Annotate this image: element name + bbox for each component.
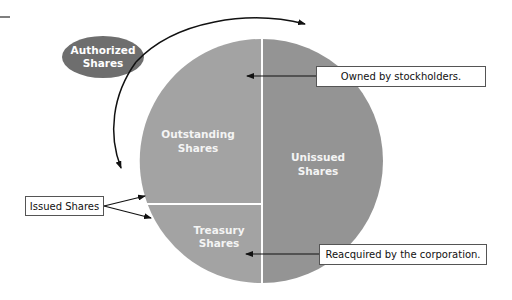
outstanding-label-line1: Outstanding [161, 128, 234, 140]
unissued-label-line2: Shares [298, 165, 339, 177]
authorized-label-line1: Authorized [71, 44, 136, 56]
treasury-label-line2: Shares [199, 237, 240, 249]
curved-arrow-down [114, 62, 136, 168]
outstanding-label-line2: Shares [178, 142, 219, 154]
slice-outstanding [140, 39, 262, 204]
treasury-label-line1: Treasury [193, 224, 244, 236]
issued-shares-callout: Issued Shares [25, 196, 104, 216]
authorized-shares-ellipse: Authorized Shares [62, 36, 144, 78]
reacquired-callout: Reacquired by the corporation. [319, 244, 487, 265]
authorized-label-line2: Shares [83, 57, 124, 69]
issued-arrow-treasury [104, 206, 151, 218]
unissued-label-line1: Unissued [291, 151, 345, 163]
issued-arrow-outstanding [104, 196, 145, 206]
owned-by-stockholders-callout: Owned by stockholders. [316, 66, 486, 87]
